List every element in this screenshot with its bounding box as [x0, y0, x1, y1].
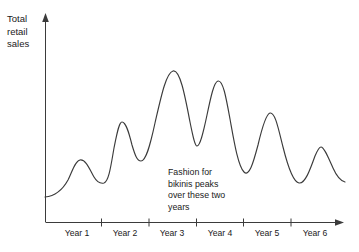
- x-tick-label-year-3: Year 3: [148, 228, 196, 238]
- x-tick-label-year-5: Year 5: [243, 228, 291, 238]
- x-tick-label-year-1: Year 1: [53, 228, 101, 238]
- chart-annotation-fashion-note: Fashion for bikinis peaks over these two…: [168, 167, 264, 213]
- y-axis-title: Total retail sales: [7, 13, 43, 51]
- x-axis: [46, 219, 345, 227]
- chart-container: Total retail sales Year 1 Year 2 Year 3 …: [0, 0, 359, 252]
- y-axis: [42, 13, 49, 222]
- chart-canvas: [0, 0, 359, 252]
- x-tick-label-year-4: Year 4: [196, 228, 244, 238]
- x-tick-label-year-6: Year 6: [291, 228, 339, 238]
- x-tick-label-year-2: Year 2: [101, 228, 149, 238]
